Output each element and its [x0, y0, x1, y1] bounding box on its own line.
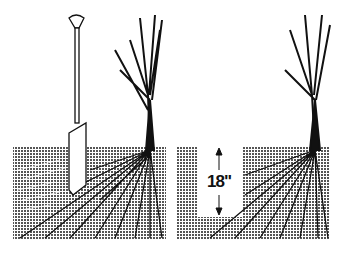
spade-icon — [69, 15, 86, 195]
illustration — [0, 0, 346, 255]
tree-left-icon — [115, 15, 162, 150]
left-panel — [13, 15, 166, 239]
depth-label: 18" — [207, 172, 231, 192]
tree-right-icon — [285, 15, 330, 150]
right-panel — [177, 15, 330, 239]
